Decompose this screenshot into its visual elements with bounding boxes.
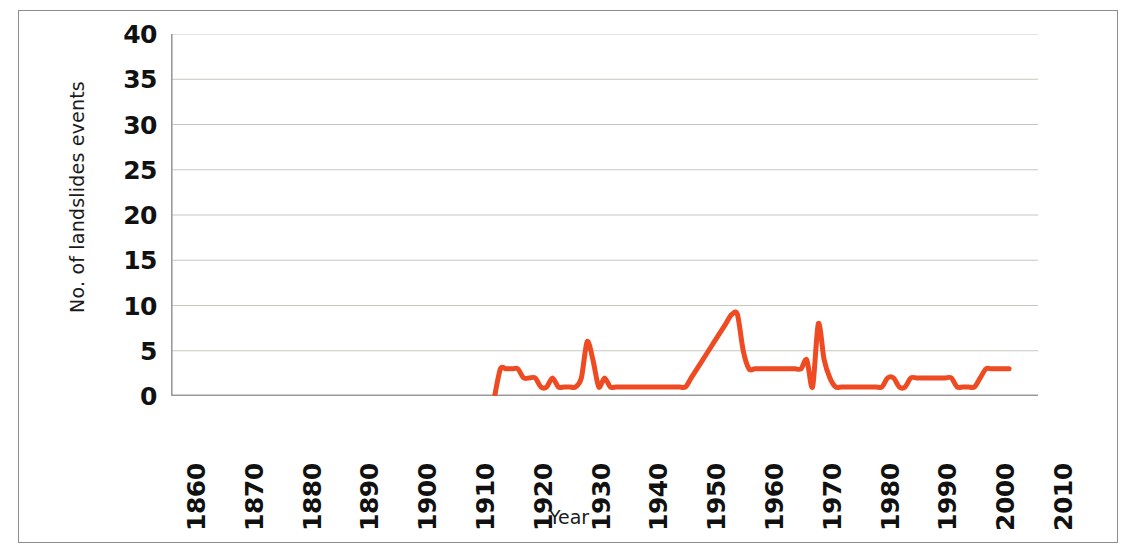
y-axis-title: No. of landslides events: [66, 77, 88, 317]
line-chart-svg: [171, 34, 1038, 396]
plot-area: [171, 34, 1038, 396]
x-axis-title: Year: [19, 506, 1119, 528]
y-axis-tick-label: 35: [91, 67, 157, 92]
chart-figure: No. of landslides events 403530252015105…: [18, 10, 1118, 543]
gridlines: [171, 34, 1038, 351]
y-axis-tick-label: 40: [91, 22, 157, 47]
y-axis-tick-label: 5: [91, 339, 157, 364]
y-axis-tick-label: 30: [91, 113, 157, 138]
y-axis-tick-label: 15: [91, 248, 157, 273]
y-axis-tick-label: 20: [91, 203, 157, 228]
y-axis-tick-label: 10: [91, 294, 157, 319]
data-series-line: [495, 312, 1009, 396]
y-axis-tick-label: 25: [91, 158, 157, 183]
y-axis-tick-label: 0: [91, 384, 157, 409]
